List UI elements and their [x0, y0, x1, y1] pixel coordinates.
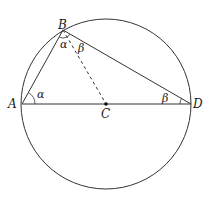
label-a: A [7, 97, 17, 111]
point-c-dot [104, 102, 108, 106]
angle-label-b-alpha: α [60, 38, 68, 51]
label-b: B [57, 18, 67, 32]
label-c: C [101, 107, 110, 121]
geometry-diagram: A B C D α α β β [0, 0, 216, 201]
segment-bc-dashed [63, 30, 106, 104]
angle-label-a-alpha: α [37, 88, 45, 101]
angle-arc-b-beta [67, 34, 70, 37]
angle-label-d-beta: β [161, 92, 168, 105]
angle-arc-d [180, 99, 182, 105]
label-d: D [192, 97, 203, 111]
angle-label-b-beta: β [77, 42, 84, 55]
angle-arc-a [28, 93, 35, 104]
